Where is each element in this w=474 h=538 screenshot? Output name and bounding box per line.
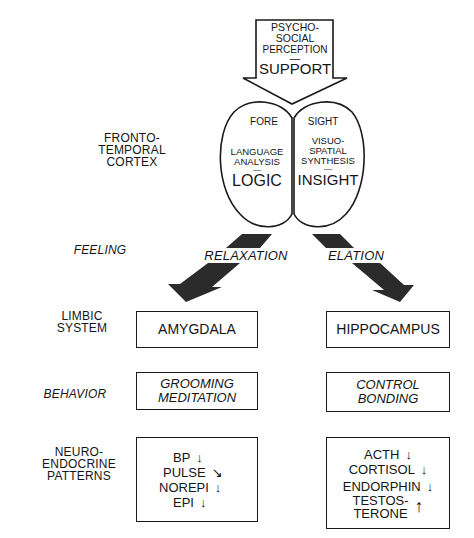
arrow-down-icon: ↓ (196, 450, 203, 465)
arrow-down-icon: ↓ (427, 479, 434, 494)
cortex-label-line-3: CORTEX (82, 156, 182, 168)
behavior-level-label: BEHAVIOR (30, 388, 120, 400)
amygdala-label: AMYGDALA (158, 322, 236, 337)
pulse-label: PULSE (163, 465, 206, 480)
endorphin-label: ENDORPHIN (343, 479, 421, 494)
behavior-bonding: BONDING (358, 392, 419, 406)
cortisol-label: CORTISOL (349, 462, 415, 477)
limbic-level-label: LIMBIC SYSTEM (42, 310, 122, 334)
neuro-label-line-3: PATTERNS (32, 470, 126, 482)
arrow-down-right-icon: ↘ (212, 465, 223, 480)
feeling-level-label: FEELING (60, 244, 140, 256)
relaxation-arrow-lower (168, 263, 240, 302)
norepi-label: NOREPI (159, 480, 209, 495)
right-neuroendocrine-box: ACTH ↓ CORTISOL ↓ ENDORPHIN ↓ TESTOS- TE… (326, 437, 450, 529)
right-lobe: SIGHT VISUO- SPATIAL SYNTHESIS — INSIGHT (294, 116, 362, 188)
neuro-item-norepi: NOREPI ↓ (159, 480, 221, 495)
right-lobe-header: SIGHT (294, 116, 352, 127)
neuro-item-epi: EPI ↓ (173, 495, 206, 510)
left-neuroendocrine-box: BP ↓ PULSE ↘ NOREPI ↓ EPI ↓ (136, 437, 258, 522)
behavior-control: CONTROL (356, 378, 420, 392)
input-line-support: SUPPORT (258, 61, 332, 77)
arrow-up-icon: ↑ (415, 499, 424, 514)
left-lobe-mode: LOGIC (222, 173, 292, 189)
neuro-item-endorphin: ENDORPHIN ↓ (343, 479, 434, 494)
feeling-relaxation: RELAXATION (192, 250, 300, 262)
testosterone-label-line-1: TESTOS- (352, 494, 408, 507)
epi-label: EPI (173, 495, 194, 510)
left-lobe-header: FORE (236, 116, 292, 127)
limbic-label-line-2: SYSTEM (42, 322, 122, 334)
neuro-item-acth: ACTH ↓ (364, 447, 412, 462)
input-arrow-label: PSYCHO- SOCIAL PERCEPTION — SUPPORT (258, 22, 332, 77)
elation-arrow-lower (352, 263, 414, 302)
behavior-grooming: GROOMING (160, 377, 234, 391)
testosterone-label: TESTOS- TERONE (352, 494, 408, 520)
acth-label: ACTH (364, 447, 399, 462)
hippocampus-label: HIPPOCAMPUS (336, 322, 439, 337)
neuro-item-bp: BP ↓ (173, 450, 203, 465)
neuro-item-testosterone: TESTOS- TERONE ↑ (352, 494, 423, 520)
arrow-down-icon: ↓ (215, 480, 222, 495)
amygdala-box: AMYGDALA (136, 311, 258, 348)
hippocampus-box: HIPPOCAMPUS (326, 311, 450, 348)
left-behavior-box: GROOMING MEDITATION (136, 372, 258, 410)
right-lobe-mode: INSIGHT (294, 172, 362, 188)
arrow-down-icon: ↓ (421, 462, 428, 477)
behavior-meditation: MEDITATION (158, 391, 236, 405)
relaxation-arrow-upper (226, 234, 272, 248)
testosterone-label-line-2: TERONE (353, 507, 407, 520)
arrow-down-icon: ↓ (200, 495, 207, 510)
left-lobe: FORE LANGUAGE ANALYSIS — LOGIC (222, 116, 292, 189)
feeling-elation: ELATION (318, 250, 394, 262)
neuro-item-cortisol: CORTISOL ↓ (349, 462, 428, 477)
cortex-level-label: FRONTO- TEMPORAL CORTEX (82, 132, 182, 168)
neuro-item-pulse: PULSE ↘ (163, 465, 223, 480)
bp-label: BP (173, 450, 190, 465)
input-line-2: SOCIAL (258, 33, 332, 44)
elation-arrow-upper (312, 234, 354, 248)
right-behavior-box: CONTROL BONDING (326, 372, 450, 412)
neuroendocrine-level-label: NEURO- ENDOCRINE PATTERNS (32, 446, 126, 482)
arrow-down-icon: ↓ (405, 447, 412, 462)
